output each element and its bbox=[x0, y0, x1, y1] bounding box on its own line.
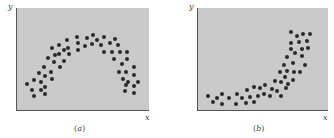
data-point bbox=[295, 34, 299, 38]
data-point bbox=[278, 70, 282, 74]
data-point bbox=[292, 70, 296, 74]
data-point bbox=[220, 92, 224, 96]
data-point bbox=[282, 63, 286, 67]
scatter-plot-b bbox=[197, 8, 328, 111]
data-point bbox=[291, 61, 295, 65]
data-point bbox=[263, 83, 267, 87]
data-point bbox=[273, 79, 277, 83]
data-point bbox=[279, 94, 283, 98]
data-point bbox=[258, 86, 262, 90]
data-point bbox=[245, 88, 249, 92]
data-point bbox=[262, 92, 266, 96]
data-point bbox=[289, 41, 293, 45]
data-point bbox=[303, 63, 307, 67]
data-point bbox=[248, 95, 252, 99]
data-point bbox=[284, 86, 288, 90]
data-point bbox=[286, 82, 290, 86]
panel-b: y x (b) bbox=[0, 0, 334, 138]
data-point bbox=[300, 54, 304, 58]
data-point bbox=[252, 100, 256, 104]
data-point bbox=[252, 85, 256, 89]
data-point bbox=[244, 101, 248, 105]
data-point bbox=[256, 94, 260, 98]
data-point bbox=[306, 46, 310, 50]
data-point bbox=[235, 92, 239, 96]
data-point bbox=[297, 40, 301, 44]
data-point bbox=[215, 96, 219, 100]
data-point bbox=[270, 87, 274, 91]
data-point bbox=[285, 69, 289, 73]
data-point bbox=[279, 80, 283, 84]
data-point bbox=[289, 30, 293, 34]
data-point bbox=[293, 51, 297, 55]
data-point bbox=[305, 39, 309, 43]
data-point bbox=[289, 47, 293, 51]
data-point bbox=[240, 96, 244, 100]
data-point bbox=[211, 100, 215, 104]
data-point bbox=[300, 47, 304, 51]
panel-caption: (b) bbox=[253, 124, 264, 133]
data-point bbox=[283, 75, 287, 79]
data-point bbox=[301, 32, 305, 36]
data-point bbox=[234, 102, 238, 106]
data-point bbox=[268, 94, 272, 98]
data-point bbox=[291, 78, 295, 82]
x-axis-label: x bbox=[323, 113, 328, 122]
data-point bbox=[298, 70, 302, 74]
data-point bbox=[308, 32, 312, 36]
y-axis-label: y bbox=[189, 2, 194, 11]
data-point bbox=[206, 94, 210, 98]
data-point bbox=[220, 102, 224, 106]
data-point bbox=[285, 55, 289, 59]
data-point bbox=[227, 96, 231, 100]
data-point bbox=[275, 89, 279, 93]
